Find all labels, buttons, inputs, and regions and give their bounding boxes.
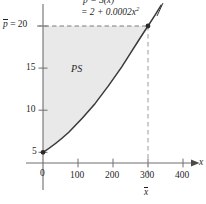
equilibrium-price-label: p = 20 <box>3 20 27 30</box>
producer-surplus-figure: p = S(x) = 2 + 0.0002x2 p = 20 15 10 5 0… <box>0 0 206 204</box>
supply-equation-prefix: = 2 + 0.0002 <box>81 7 132 17</box>
x-tick-label-100: 100 <box>70 171 84 181</box>
curve-start-point-marker <box>41 150 46 155</box>
overbar-x-icon <box>144 187 148 188</box>
x-tick-label-400: 400 <box>175 171 189 181</box>
supply-equation-line2: = 2 + 0.0002x2 <box>81 6 139 18</box>
equilibrium-price-value: = 20 <box>10 19 27 29</box>
x-bar-symbol: x <box>144 188 148 198</box>
supply-equation-exponent: 2 <box>136 5 139 12</box>
y-tick-label-5: 5 <box>32 147 37 157</box>
y-tick-label-15: 15 <box>26 63 36 73</box>
x-axis-name-label: x <box>199 158 203 168</box>
y-tick-label-10: 10 <box>26 105 36 115</box>
equilibrium-point-marker <box>146 24 151 29</box>
producer-surplus-shaded-area <box>43 26 148 152</box>
supply-equation-line1: p = S(x) <box>83 0 114 6</box>
x-tick-label-300: 300 <box>140 171 154 181</box>
x-tick-label-0: 0 <box>40 169 45 179</box>
x-tick-label-200: 200 <box>105 171 119 181</box>
producer-surplus-label: PS <box>71 64 83 74</box>
overbar-p-icon <box>3 19 8 20</box>
equilibrium-quantity-label: x <box>144 188 148 198</box>
p-bar-symbol: p <box>3 20 8 30</box>
